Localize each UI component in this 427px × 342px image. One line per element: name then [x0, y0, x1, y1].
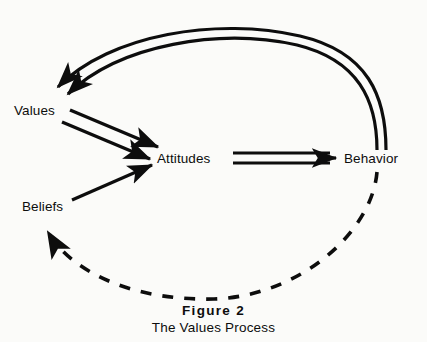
- node-label-values: Values: [14, 103, 55, 118]
- figure-caption-subtitle: The Values Process: [0, 319, 427, 336]
- edge-beliefs-to-attitudes: [72, 165, 152, 200]
- edge-values-to-attitudes: [62, 110, 158, 159]
- edge-behavior-to-beliefs: [48, 172, 377, 299]
- values-process-diagram: [0, 0, 427, 342]
- edge-attitudes-to-behavior: [233, 153, 336, 163]
- figure-caption: Figure 2 The Values Process: [0, 303, 427, 336]
- edge-behavior-to-values: [58, 28, 386, 150]
- figure-page: Values Attitudes Behavior Beliefs Figure…: [0, 0, 427, 342]
- node-label-beliefs: Beliefs: [22, 199, 63, 214]
- node-label-behavior: Behavior: [344, 151, 398, 166]
- figure-caption-title: Figure 2: [0, 303, 427, 319]
- node-label-attitudes: Attitudes: [157, 151, 210, 166]
